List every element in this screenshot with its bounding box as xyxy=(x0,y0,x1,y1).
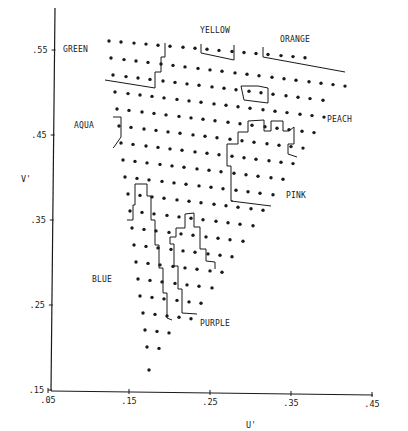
data-point xyxy=(261,209,264,212)
data-point xyxy=(185,82,188,85)
data-point xyxy=(257,74,260,77)
data-point xyxy=(216,237,219,240)
data-point xyxy=(117,124,120,127)
data-point xyxy=(256,175,259,178)
data-point xyxy=(201,118,204,121)
data-point xyxy=(182,166,185,169)
boundary-line xyxy=(263,47,345,72)
data-point xyxy=(171,265,174,268)
data-point xyxy=(241,240,244,243)
data-point xyxy=(169,248,172,251)
data-point xyxy=(210,85,213,88)
data-point xyxy=(248,107,251,110)
data-point xyxy=(144,42,147,45)
data-point xyxy=(161,79,164,82)
data-point xyxy=(171,64,174,67)
data-point xyxy=(130,226,133,229)
data-point xyxy=(230,155,233,158)
y-tick-label: .55 xyxy=(32,45,47,55)
boundary-line xyxy=(105,43,165,88)
data-point xyxy=(148,279,151,282)
data-point xyxy=(144,245,147,248)
data-point xyxy=(167,331,170,334)
data-point xyxy=(208,269,211,272)
data-point xyxy=(217,153,220,156)
data-point xyxy=(135,177,138,180)
data-point xyxy=(168,147,171,150)
data-point xyxy=(312,131,315,134)
data-point xyxy=(254,158,257,161)
data-point xyxy=(134,260,137,263)
data-point xyxy=(281,178,284,181)
data-point xyxy=(179,232,182,235)
data-point xyxy=(273,110,276,113)
data-point xyxy=(181,46,184,49)
data-point xyxy=(180,149,183,152)
data-point xyxy=(124,75,127,78)
data-point xyxy=(298,113,301,116)
data-point xyxy=(184,183,187,186)
data-point xyxy=(197,184,200,187)
data-point xyxy=(156,44,159,47)
data-point xyxy=(162,297,165,300)
label-pink: PINK xyxy=(286,191,306,200)
data-point xyxy=(212,102,215,105)
data-point xyxy=(224,104,227,107)
data-point xyxy=(208,68,211,71)
data-point xyxy=(250,124,253,127)
data-point xyxy=(177,215,180,218)
data-point xyxy=(142,228,145,231)
data-point xyxy=(214,220,217,223)
data-point xyxy=(107,39,110,42)
data-point xyxy=(220,271,223,274)
data-point xyxy=(271,193,274,196)
data-point xyxy=(265,142,268,145)
data-point xyxy=(126,192,129,195)
data-point xyxy=(127,109,130,112)
data-point xyxy=(199,302,202,305)
data-point xyxy=(234,189,237,192)
data-point xyxy=(261,108,264,111)
data-point xyxy=(183,65,186,68)
data-point xyxy=(224,204,227,207)
data-point xyxy=(240,139,243,142)
boundary-line xyxy=(227,120,297,166)
boundary-line xyxy=(241,86,268,103)
data-point xyxy=(119,141,122,144)
data-point xyxy=(145,161,148,164)
data-point xyxy=(136,277,139,280)
data-point xyxy=(215,136,218,139)
data-point xyxy=(282,77,285,80)
data-point xyxy=(154,229,157,232)
data-point xyxy=(226,221,229,224)
axes xyxy=(51,8,373,395)
data-point xyxy=(152,112,155,115)
data-point xyxy=(126,92,129,95)
data-point xyxy=(138,194,141,197)
data-point xyxy=(230,50,233,53)
data-point xyxy=(279,161,282,164)
data-point xyxy=(232,172,235,175)
data-point xyxy=(238,122,241,125)
y-tick-label: .35 xyxy=(30,215,45,225)
data-point xyxy=(271,93,274,96)
data-point xyxy=(287,128,290,131)
boundary-line xyxy=(135,184,172,320)
data-point xyxy=(331,83,334,86)
data-point xyxy=(234,88,237,91)
data-point xyxy=(321,99,324,102)
boundary-line xyxy=(201,44,234,60)
x-tick-label: .25 xyxy=(202,397,217,407)
data-point xyxy=(165,314,168,317)
data-point xyxy=(128,209,131,212)
data-point xyxy=(166,130,169,133)
data-point xyxy=(122,58,125,61)
boundary-line xyxy=(231,201,271,206)
data-point xyxy=(226,121,229,124)
data-point xyxy=(183,266,186,269)
data-point xyxy=(133,160,136,163)
data-point xyxy=(146,262,149,265)
data-point xyxy=(173,81,176,84)
data-point xyxy=(165,214,168,217)
boundary-line xyxy=(227,166,233,201)
